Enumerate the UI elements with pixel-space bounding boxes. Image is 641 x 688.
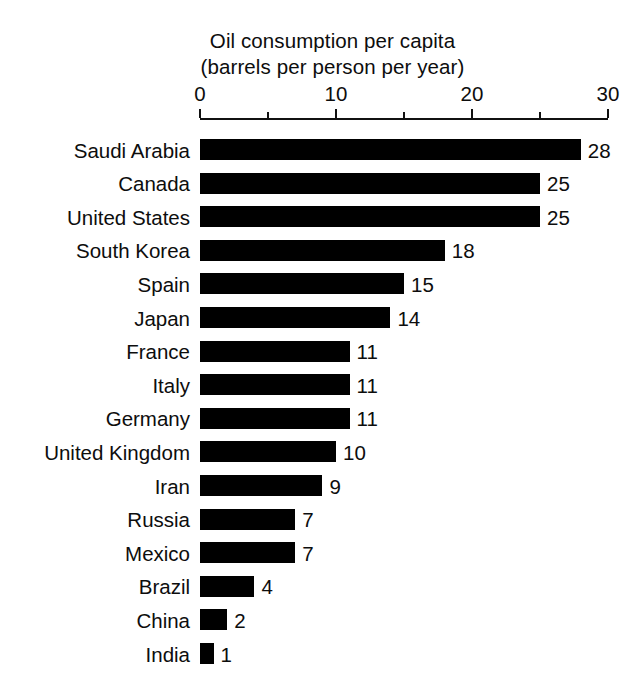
bar-category-label: China — [0, 609, 200, 630]
bar-rect[interactable] — [200, 240, 445, 261]
bar-row[interactable]: Canada25 — [0, 173, 641, 194]
bar-rect[interactable] — [200, 341, 350, 362]
bar-value-label: 10 — [343, 441, 366, 462]
bar-rect[interactable] — [200, 441, 336, 462]
bar-row[interactable]: Russia7 — [0, 509, 641, 530]
bar-category-label: Germany — [0, 408, 200, 429]
bar-category-label: Spain — [0, 273, 200, 294]
bar-row[interactable]: France11 — [0, 341, 641, 362]
bar-value-label: 11 — [357, 374, 378, 395]
bar-value-label: 15 — [411, 273, 434, 294]
bar-value-label: 25 — [547, 173, 570, 194]
bar-value-label: 18 — [452, 240, 475, 261]
bar-rect[interactable] — [200, 643, 214, 664]
bar-category-label: United States — [0, 206, 200, 227]
bar-rect[interactable] — [200, 509, 295, 530]
bar-value-label: 7 — [302, 509, 313, 530]
bar-rect[interactable] — [200, 206, 540, 227]
bar-category-label: Italy — [0, 374, 200, 395]
bar-category-label: South Korea — [0, 240, 200, 261]
bar-row[interactable]: Japan14 — [0, 307, 641, 328]
bar-row[interactable]: Spain15 — [0, 273, 641, 294]
bar-category-label: Iran — [0, 475, 200, 496]
bar-category-label: France — [0, 341, 200, 362]
bar-rect[interactable] — [200, 374, 350, 395]
bar-rect[interactable] — [200, 542, 295, 563]
bar-category-label: Russia — [0, 509, 200, 530]
bar-rect[interactable] — [200, 609, 227, 630]
bar-row[interactable]: United States25 — [0, 206, 641, 227]
bar-row[interactable]: Mexico7 — [0, 542, 641, 563]
bar-value-label: 14 — [397, 307, 420, 328]
plot-area: Saudi Arabia28Canada25United States25Sou… — [0, 0, 641, 688]
bar-rect[interactable] — [200, 173, 540, 194]
bar-category-label: Saudi Arabia — [0, 139, 200, 160]
bar-row[interactable]: Brazil4 — [0, 576, 641, 597]
bar-value-label: 2 — [234, 609, 245, 630]
bar-value-label: 9 — [329, 475, 340, 496]
bar-row[interactable]: Saudi Arabia28 — [0, 139, 641, 160]
bar-value-label: 11 — [357, 341, 378, 362]
bar-value-label: 11 — [357, 408, 378, 429]
bar-value-label: 4 — [261, 576, 272, 597]
bar-row[interactable]: Italy11 — [0, 374, 641, 395]
bar-row[interactable]: China2 — [0, 609, 641, 630]
bar-value-label: 25 — [547, 206, 570, 227]
bar-category-label: United Kingdom — [0, 441, 200, 462]
bar-row[interactable]: United Kingdom10 — [0, 441, 641, 462]
bar-value-label: 7 — [302, 542, 313, 563]
bar-value-label: 28 — [588, 139, 611, 160]
bar-category-label: Brazil — [0, 576, 200, 597]
bar-row[interactable]: Iran9 — [0, 475, 641, 496]
bar-value-label: 1 — [221, 643, 232, 664]
bar-row[interactable]: Germany11 — [0, 408, 641, 429]
bar-row[interactable]: South Korea18 — [0, 240, 641, 261]
bar-category-label: Canada — [0, 173, 200, 194]
bar-rect[interactable] — [200, 475, 322, 496]
bar-rect[interactable] — [200, 576, 254, 597]
bar-rect[interactable] — [200, 408, 350, 429]
bar-category-label: Japan — [0, 307, 200, 328]
bar-row[interactable]: India1 — [0, 643, 641, 664]
bar-chart: Oil consumption per capita (barrels per … — [0, 0, 641, 688]
bar-category-label: Mexico — [0, 542, 200, 563]
bar-rect[interactable] — [200, 273, 404, 294]
bar-rect[interactable] — [200, 139, 581, 160]
bar-category-label: India — [0, 643, 200, 664]
bar-rect[interactable] — [200, 307, 390, 328]
